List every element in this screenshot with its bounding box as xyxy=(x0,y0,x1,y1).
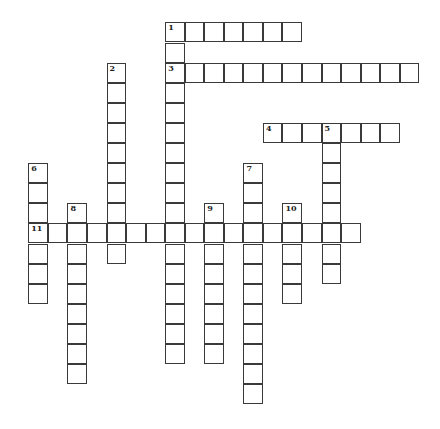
crossword-cell[interactable] xyxy=(361,63,381,83)
crossword-cell[interactable] xyxy=(67,324,87,344)
crossword-cell[interactable] xyxy=(165,264,185,284)
crossword-cell[interactable] xyxy=(67,264,87,284)
crossword-cell[interactable] xyxy=(67,344,87,364)
crossword-cell[interactable] xyxy=(224,223,244,243)
crossword-cell[interactable] xyxy=(185,223,205,243)
crossword-cell[interactable] xyxy=(87,223,107,243)
crossword-cell[interactable] xyxy=(67,304,87,324)
crossword-cell[interactable] xyxy=(185,63,205,83)
crossword-cell[interactable] xyxy=(165,304,185,324)
crossword-cell[interactable] xyxy=(263,22,283,42)
crossword-cell[interactable]: 5 xyxy=(322,123,342,143)
crossword-cell[interactable] xyxy=(107,163,127,183)
crossword-cell[interactable] xyxy=(67,244,87,264)
crossword-cell[interactable] xyxy=(243,284,263,304)
crossword-cell[interactable] xyxy=(282,284,302,304)
crossword-cell[interactable]: 11 xyxy=(28,223,48,243)
crossword-cell[interactable] xyxy=(126,223,146,243)
crossword-cell[interactable] xyxy=(165,143,185,163)
crossword-cell[interactable] xyxy=(341,123,361,143)
crossword-cell[interactable] xyxy=(282,123,302,143)
crossword-cell[interactable] xyxy=(243,384,263,404)
crossword-cell[interactable] xyxy=(282,264,302,284)
crossword-cell[interactable] xyxy=(263,63,283,83)
crossword-cell[interactable]: 6 xyxy=(28,163,48,183)
crossword-cell[interactable] xyxy=(243,264,263,284)
crossword-cell[interactable] xyxy=(243,203,263,223)
crossword-cell[interactable] xyxy=(28,264,48,284)
crossword-cell[interactable] xyxy=(185,22,205,42)
crossword-cell[interactable] xyxy=(28,244,48,264)
crossword-cell[interactable] xyxy=(67,223,87,243)
crossword-cell[interactable] xyxy=(107,183,127,203)
crossword-cell[interactable] xyxy=(282,244,302,264)
crossword-cell[interactable] xyxy=(28,203,48,223)
crossword-cell[interactable] xyxy=(243,223,263,243)
crossword-cell[interactable] xyxy=(204,244,224,264)
crossword-cell[interactable] xyxy=(165,344,185,364)
crossword-cell[interactable]: 7 xyxy=(243,163,263,183)
crossword-cell[interactable] xyxy=(204,304,224,324)
crossword-cell[interactable] xyxy=(107,123,127,143)
crossword-cell[interactable] xyxy=(400,63,420,83)
crossword-cell[interactable] xyxy=(165,223,185,243)
crossword-cell[interactable] xyxy=(107,203,127,223)
crossword-cell[interactable] xyxy=(107,223,127,243)
crossword-cell[interactable] xyxy=(107,83,127,103)
crossword-cell[interactable] xyxy=(282,223,302,243)
crossword-cell[interactable] xyxy=(165,203,185,223)
crossword-cell[interactable] xyxy=(224,22,244,42)
crossword-cell[interactable] xyxy=(165,284,185,304)
crossword-cell[interactable] xyxy=(204,284,224,304)
crossword-cell[interactable]: 10 xyxy=(282,203,302,223)
crossword-cell[interactable] xyxy=(48,223,68,243)
crossword-cell[interactable]: 2 xyxy=(107,63,127,83)
crossword-cell[interactable] xyxy=(243,63,263,83)
crossword-cell[interactable] xyxy=(282,63,302,83)
crossword-cell[interactable] xyxy=(341,63,361,83)
crossword-cell[interactable] xyxy=(361,123,381,143)
crossword-cell[interactable] xyxy=(165,43,185,63)
crossword-cell[interactable] xyxy=(107,103,127,123)
crossword-cell[interactable]: 1 xyxy=(165,22,185,42)
crossword-cell[interactable] xyxy=(322,143,342,163)
crossword-cell[interactable]: 3 xyxy=(165,63,185,83)
crossword-cell[interactable] xyxy=(380,63,400,83)
crossword-cell[interactable] xyxy=(243,22,263,42)
crossword-cell[interactable] xyxy=(165,83,185,103)
crossword-cell[interactable] xyxy=(322,264,342,284)
crossword-cell[interactable] xyxy=(263,223,283,243)
crossword-cell[interactable] xyxy=(165,163,185,183)
crossword-cell[interactable] xyxy=(204,223,224,243)
crossword-cell[interactable] xyxy=(204,344,224,364)
crossword-cell[interactable] xyxy=(322,63,342,83)
crossword-cell[interactable] xyxy=(107,244,127,264)
crossword-cell[interactable] xyxy=(243,304,263,324)
crossword-cell[interactable] xyxy=(282,22,302,42)
crossword-cell[interactable] xyxy=(322,203,342,223)
crossword-cell[interactable] xyxy=(322,223,342,243)
crossword-cell[interactable] xyxy=(380,123,400,143)
crossword-cell[interactable] xyxy=(243,324,263,344)
crossword-cell[interactable] xyxy=(302,123,322,143)
crossword-cell[interactable] xyxy=(243,344,263,364)
crossword-cell[interactable] xyxy=(204,264,224,284)
crossword-cell[interactable] xyxy=(146,223,166,243)
crossword-cell[interactable] xyxy=(165,123,185,143)
crossword-cell[interactable]: 9 xyxy=(204,203,224,223)
crossword-cell[interactable] xyxy=(107,143,127,163)
crossword-cell[interactable] xyxy=(224,63,244,83)
crossword-cell[interactable] xyxy=(322,244,342,264)
crossword-cell[interactable] xyxy=(28,183,48,203)
crossword-cell[interactable] xyxy=(322,163,342,183)
crossword-cell[interactable]: 4 xyxy=(263,123,283,143)
crossword-cell[interactable] xyxy=(243,183,263,203)
crossword-cell[interactable] xyxy=(165,244,185,264)
crossword-cell[interactable] xyxy=(302,223,322,243)
crossword-cell[interactable] xyxy=(165,103,185,123)
crossword-cell[interactable] xyxy=(341,223,361,243)
crossword-cell[interactable] xyxy=(322,183,342,203)
crossword-cell[interactable] xyxy=(204,324,224,344)
crossword-cell[interactable] xyxy=(204,22,224,42)
crossword-cell[interactable]: 8 xyxy=(67,203,87,223)
